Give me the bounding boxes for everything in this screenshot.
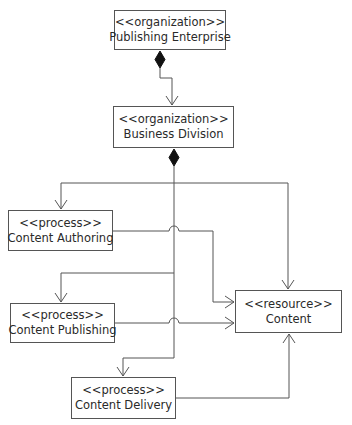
node-label: Publishing Enterprise — [109, 30, 231, 45]
node-label: Content — [266, 312, 312, 327]
node-content[interactable]: <<resource>> Content — [235, 290, 342, 333]
composition-diamond-enterprise — [155, 51, 165, 68]
node-label: Business Division — [124, 127, 224, 142]
node-content-publishing[interactable]: <<process>> Content Publishing — [10, 303, 115, 343]
edge-division-content — [174, 183, 288, 289]
node-label: Content Publishing — [8, 323, 116, 338]
node-business-division[interactable]: <<organization>> Business Division — [113, 106, 234, 148]
node-stereotype: <<process>> — [19, 216, 102, 231]
node-stereotype: <<organization>> — [118, 112, 228, 127]
node-stereotype: <<resource>> — [244, 297, 332, 312]
node-label: Content Authoring — [8, 231, 114, 246]
edge-division-authoring — [61, 183, 174, 209]
node-stereotype: <<organization>> — [115, 15, 225, 30]
node-content-delivery[interactable]: <<process>> Content Delivery — [71, 377, 176, 419]
node-label: Content Delivery — [75, 398, 172, 413]
composition-diamond-division — [169, 149, 179, 166]
edge-division-delivery — [123, 358, 174, 376]
edge-enterprise-division — [160, 68, 172, 105]
node-stereotype: <<process>> — [82, 383, 165, 398]
node-publishing-enterprise[interactable]: <<organization>> Publishing Enterprise — [114, 10, 226, 50]
node-content-authoring[interactable]: <<process>> Content Authoring — [8, 210, 113, 251]
node-stereotype: <<process>> — [21, 308, 104, 323]
edge-delivery-content — [176, 334, 289, 398]
edge-division-publishing — [61, 273, 174, 302]
